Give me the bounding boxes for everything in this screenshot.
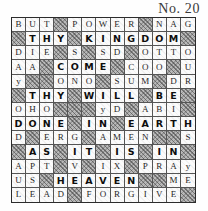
- grid-cell[interactable]: E: [96, 60, 110, 74]
- grid-cell[interactable]: O: [153, 32, 167, 46]
- grid-cell[interactable]: O: [40, 103, 54, 117]
- grid-cell[interactable]: V: [68, 160, 82, 174]
- grid-cell[interactable]: U: [181, 60, 195, 74]
- grid-cell[interactable]: D: [12, 117, 26, 131]
- grid-cell[interactable]: O: [26, 117, 40, 131]
- grid-cell[interactable]: N: [125, 174, 139, 188]
- grid-cell[interactable]: S: [181, 131, 195, 145]
- grid-cell[interactable]: N: [96, 117, 110, 131]
- grid-cell[interactable]: V: [96, 174, 110, 188]
- grid-cell[interactable]: R: [153, 160, 167, 174]
- grid-cell[interactable]: U: [125, 75, 139, 89]
- grid-cell[interactable]: D: [139, 32, 153, 46]
- grid-cell[interactable]: y: [181, 160, 195, 174]
- grid-cell[interactable]: S: [96, 46, 110, 60]
- grid-cell[interactable]: E: [125, 131, 139, 145]
- grid-cell[interactable]: A: [12, 60, 26, 74]
- grid-cell[interactable]: N: [68, 75, 82, 89]
- grid-cell[interactable]: H: [181, 117, 195, 131]
- grid-cell[interactable]: X: [111, 160, 125, 174]
- grid-cell[interactable]: K: [82, 32, 96, 46]
- grid-cell[interactable]: H: [26, 103, 40, 117]
- grid-cell[interactable]: B: [153, 89, 167, 103]
- grid-cell[interactable]: N: [111, 32, 125, 46]
- grid-cell[interactable]: O: [181, 46, 195, 60]
- grid-cell[interactable]: N: [40, 117, 54, 131]
- grid-cell[interactable]: H: [40, 32, 54, 46]
- grid-cell[interactable]: I: [96, 89, 110, 103]
- grid-cell[interactable]: O: [54, 75, 68, 89]
- grid-cell[interactable]: L: [125, 89, 139, 103]
- grid-cell[interactable]: G: [125, 188, 139, 202]
- grid-cell[interactable]: N: [153, 18, 167, 32]
- grid-cell[interactable]: L: [12, 188, 26, 202]
- grid-cell[interactable]: G: [181, 18, 195, 32]
- grid-cell[interactable]: T: [167, 46, 181, 60]
- grid-cell[interactable]: D: [111, 46, 125, 60]
- grid-cell[interactable]: M: [167, 174, 181, 188]
- grid-cell[interactable]: S: [26, 174, 40, 188]
- grid-cell[interactable]: Y: [54, 89, 68, 103]
- grid-cell[interactable]: T: [26, 89, 40, 103]
- grid-cell[interactable]: E: [167, 188, 181, 202]
- grid-cell[interactable]: D: [54, 188, 68, 202]
- grid-cell[interactable]: O: [82, 18, 96, 32]
- grid-cell[interactable]: T: [40, 160, 54, 174]
- grid-cell[interactable]: I: [68, 145, 82, 159]
- grid-cell[interactable]: G: [68, 131, 82, 145]
- grid-cell[interactable]: O: [139, 46, 153, 60]
- grid-cell[interactable]: D: [12, 131, 26, 145]
- grid-cell[interactable]: D: [167, 75, 181, 89]
- grid-cell[interactable]: N: [139, 131, 153, 145]
- grid-cell[interactable]: Y: [54, 32, 68, 46]
- grid-cell[interactable]: A: [12, 160, 26, 174]
- crossword-grid[interactable]: BUTPOWERNAGTHYKINGDOMDIESSDOTTOAACOMECOO…: [11, 17, 196, 203]
- grid-cell[interactable]: C: [125, 60, 139, 74]
- grid-cell[interactable]: O: [153, 60, 167, 74]
- grid-cell[interactable]: E: [40, 131, 54, 145]
- grid-cell[interactable]: E: [68, 174, 82, 188]
- grid-cell[interactable]: I: [153, 145, 167, 159]
- grid-cell[interactable]: M: [167, 32, 181, 46]
- grid-cell[interactable]: I: [111, 145, 125, 159]
- grid-cell[interactable]: I: [96, 32, 110, 46]
- grid-cell[interactable]: T: [82, 145, 96, 159]
- grid-cell[interactable]: W: [82, 89, 96, 103]
- grid-cell[interactable]: I: [96, 160, 110, 174]
- grid-cell[interactable]: A: [82, 174, 96, 188]
- grid-cell[interactable]: O: [82, 75, 96, 89]
- grid-cell[interactable]: T: [26, 32, 40, 46]
- grid-cell[interactable]: G: [125, 32, 139, 46]
- grid-cell[interactable]: E: [54, 117, 68, 131]
- grid-cell[interactable]: U: [12, 174, 26, 188]
- grid-cell[interactable]: T: [167, 117, 181, 131]
- grid-cell[interactable]: D: [111, 103, 125, 117]
- grid-cell[interactable]: A: [26, 145, 40, 159]
- grid-cell[interactable]: A: [139, 103, 153, 117]
- grid-cell[interactable]: M: [139, 75, 153, 89]
- grid-cell[interactable]: E: [40, 46, 54, 60]
- grid-cell[interactable]: F: [82, 188, 96, 202]
- grid-cell[interactable]: E: [167, 89, 181, 103]
- grid-cell[interactable]: R: [111, 188, 125, 202]
- grid-cell[interactable]: M: [111, 131, 125, 145]
- grid-cell[interactable]: H: [40, 89, 54, 103]
- grid-cell[interactable]: B: [153, 103, 167, 117]
- grid-cell[interactable]: W: [96, 18, 110, 32]
- grid-cell[interactable]: y: [12, 75, 26, 89]
- grid-cell[interactable]: N: [167, 145, 181, 159]
- grid-cell[interactable]: y: [96, 103, 110, 117]
- grid-cell[interactable]: O: [12, 103, 26, 117]
- grid-cell[interactable]: R: [181, 75, 195, 89]
- grid-cell[interactable]: U: [26, 18, 40, 32]
- grid-cell[interactable]: A: [167, 160, 181, 174]
- grid-cell[interactable]: R: [153, 117, 167, 131]
- grid-cell[interactable]: S: [125, 145, 139, 159]
- grid-cell[interactable]: E: [111, 174, 125, 188]
- grid-cell[interactable]: S: [68, 46, 82, 60]
- grid-cell[interactable]: I: [82, 117, 96, 131]
- grid-cell[interactable]: O: [96, 188, 110, 202]
- grid-cell[interactable]: E: [111, 18, 125, 32]
- grid-cell[interactable]: D: [12, 46, 26, 60]
- grid-cell[interactable]: A: [40, 188, 54, 202]
